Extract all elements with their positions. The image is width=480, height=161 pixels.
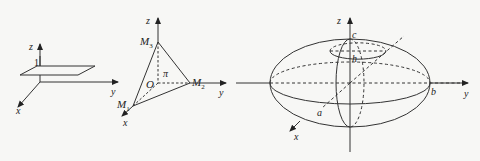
- x-axis-label: x: [15, 105, 21, 116]
- z-axis-label: z: [145, 15, 150, 26]
- figure-plane-z1: [18, 44, 118, 107]
- y-axis-label: y: [218, 87, 224, 98]
- x-axis: [18, 82, 40, 107]
- x-axis-label: x: [293, 131, 299, 142]
- height-label: 1: [34, 57, 39, 68]
- semi-axis-b: b: [431, 86, 436, 97]
- z-axis-label: z: [28, 41, 33, 52]
- plane-pi-label: π: [163, 68, 169, 79]
- x-axis: [290, 121, 300, 131]
- x-axis-label: x: [122, 117, 128, 128]
- diagram-canvas: z 1 y x z M3 π O M2 M1 x y: [0, 0, 480, 161]
- y-axis-label: y: [463, 88, 469, 99]
- section-height-h: h: [352, 53, 357, 64]
- edge-m3-m1: [133, 42, 158, 106]
- y-axis-label: y: [110, 86, 116, 97]
- point-m3: M3: [139, 35, 153, 50]
- point-m1: M1: [116, 98, 130, 113]
- semi-axis-a: a: [317, 107, 322, 118]
- edge-m1-m2: [133, 83, 190, 106]
- origin-label: O: [146, 78, 154, 90]
- figure-tetrahedron: [122, 18, 190, 116]
- z-axis-label: z: [336, 15, 341, 26]
- plane-z1: [20, 66, 95, 75]
- figure-ellipsoid: [270, 18, 468, 152]
- semi-axis-c: c: [352, 29, 357, 40]
